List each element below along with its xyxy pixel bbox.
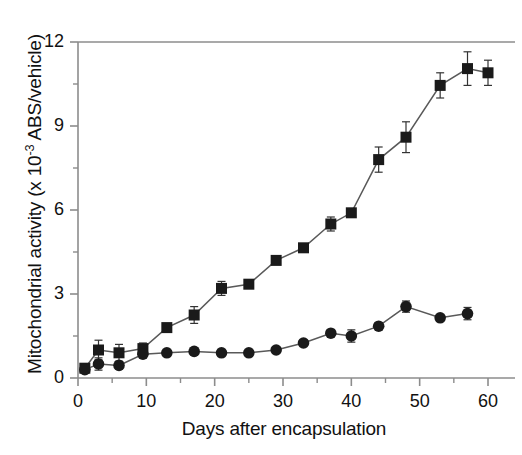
data-point-circle (325, 327, 337, 339)
chart-figure: Mitochondrial activity (x 10-3 ABS/vehic… (0, 0, 522, 455)
data-point-square (243, 279, 254, 290)
data-point-circle (270, 344, 282, 356)
plot-area (0, 0, 522, 455)
series-group (79, 52, 493, 376)
data-point-circle (298, 337, 310, 349)
data-point-square (483, 67, 494, 78)
data-point-square (373, 154, 384, 165)
data-point-circle (346, 330, 358, 342)
data-point-circle (216, 347, 228, 359)
data-point-square (325, 219, 336, 230)
data-point-square (401, 132, 412, 143)
data-point-circle (462, 308, 474, 320)
data-point-circle (113, 360, 125, 372)
data-point-circle (137, 348, 149, 360)
data-point-circle (93, 358, 105, 370)
data-point-square (93, 345, 104, 356)
data-point-square (216, 283, 227, 294)
data-point-square (189, 310, 200, 321)
series-line-circles (85, 307, 468, 370)
data-point-square (435, 80, 446, 91)
data-point-square (346, 207, 357, 218)
data-point-square (271, 255, 282, 266)
data-point-circle (79, 364, 91, 376)
data-point-square (114, 347, 125, 358)
data-point-square (161, 322, 172, 333)
series-line-squares (85, 69, 488, 369)
data-point-circle (400, 301, 412, 313)
data-point-circle (434, 312, 446, 324)
data-point-circle (161, 347, 173, 359)
axes-group (70, 42, 515, 386)
data-point-circle (243, 347, 255, 359)
data-point-circle (188, 346, 200, 358)
data-point-square (462, 63, 473, 74)
data-point-circle (373, 320, 385, 332)
data-point-square (298, 242, 309, 253)
